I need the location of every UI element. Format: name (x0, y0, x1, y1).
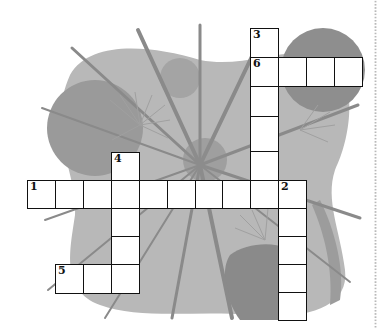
clue-number: 5 (58, 265, 66, 277)
clue-number: 6 (253, 58, 261, 70)
crossword-cell-2-down-3[interactable] (278, 236, 307, 265)
crossword-cell-3-down-3[interactable] (250, 86, 279, 117)
clue-number: 3 (253, 29, 261, 41)
crossword-cell-6-across-4[interactable] (334, 57, 363, 87)
crossword-cell-3-down-4[interactable] (250, 116, 279, 152)
crossword-cell-1-across-9[interactable] (250, 180, 279, 209)
crossword-cell-4-down-3[interactable] (111, 208, 140, 237)
dotted-divider (374, 0, 377, 329)
crossword-cell-6-across-3[interactable] (306, 57, 335, 87)
crossword-cell-4-down-1[interactable]: 4 (111, 152, 140, 181)
crossword-cell-5-across-1[interactable]: 5 (55, 264, 84, 294)
crossword-cell-1-across-6[interactable] (167, 180, 196, 209)
crossword-cell-6-across-2[interactable] (278, 57, 307, 87)
crossword-cell-4-down-4[interactable] (111, 236, 140, 265)
crossword-cell-3-down-5[interactable] (250, 151, 279, 181)
clue-number: 4 (114, 153, 122, 165)
crossword-cell-2-down-2[interactable] (278, 208, 307, 237)
crossword-cell-2-down-4[interactable] (278, 264, 307, 293)
crossword-cell-1-across-3[interactable] (83, 180, 112, 209)
crossword-cell-5-across-2[interactable] (83, 264, 112, 294)
crossword-cell-1-across-4[interactable] (111, 180, 140, 209)
crossword-cell-1-across-7[interactable] (195, 180, 224, 209)
crossword-cell-2-down-5[interactable] (278, 292, 307, 321)
crossword-cell-1-across-1[interactable]: 1 (27, 180, 56, 209)
crossword-cell-4-down-5[interactable] (111, 264, 140, 294)
crossword-cell-3-down-1[interactable]: 3 (250, 28, 279, 58)
crossword-cell-1-across-2[interactable] (55, 180, 84, 209)
crossword-page: 1 2 3 6 4 5 (0, 0, 386, 329)
crossword-cell-1-across-10[interactable]: 2 (278, 180, 307, 209)
clue-number: 1 (30, 181, 38, 193)
crossword-cell-3-down-2[interactable]: 6 (250, 57, 279, 87)
crossword-cell-1-across-8[interactable] (222, 180, 251, 209)
crossword-cell-1-across-5[interactable] (139, 180, 168, 209)
clue-number: 2 (281, 181, 289, 193)
